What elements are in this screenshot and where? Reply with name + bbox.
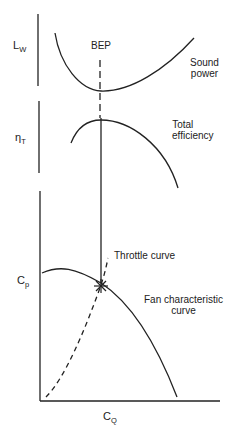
efficiency-label-line1: Total	[152, 119, 214, 130]
sound-power-label: Sound power	[190, 57, 219, 79]
throttle-curve	[46, 258, 108, 397]
sound-power-curve	[55, 33, 194, 91]
cp-subscript: p	[25, 280, 29, 289]
sound-power-label-line1: Sound	[190, 57, 219, 68]
eta-subscript: T	[21, 137, 26, 146]
cp-symbol: C	[17, 274, 25, 286]
cq-axis-label: CQ	[103, 411, 117, 423]
operating-point-marker	[94, 279, 108, 293]
bep-label: BEP	[91, 40, 111, 51]
efficiency-label-line2: efficiency	[172, 130, 214, 141]
lw-axis-label: LW	[13, 40, 26, 52]
throttle-curve-label: Throttle curve	[114, 250, 175, 261]
cq-subscript: Q	[111, 416, 117, 425]
eta-axis-label: ηT	[15, 132, 26, 144]
lw-subscript: W	[19, 45, 26, 54]
cp-axis-label: Cp	[17, 275, 29, 287]
fan-characteristic-label-line1: Fan characteristic	[144, 294, 223, 305]
fan-characteristic-label-line2: curve	[144, 305, 223, 316]
sound-power-label-line2: power	[190, 68, 219, 79]
fan-characteristic-label: Fan characteristic curve	[144, 294, 223, 316]
efficiency-label: Total efficiency	[160, 119, 214, 141]
cq-symbol: C	[103, 410, 111, 422]
fan-characteristic-curve	[42, 269, 177, 397]
